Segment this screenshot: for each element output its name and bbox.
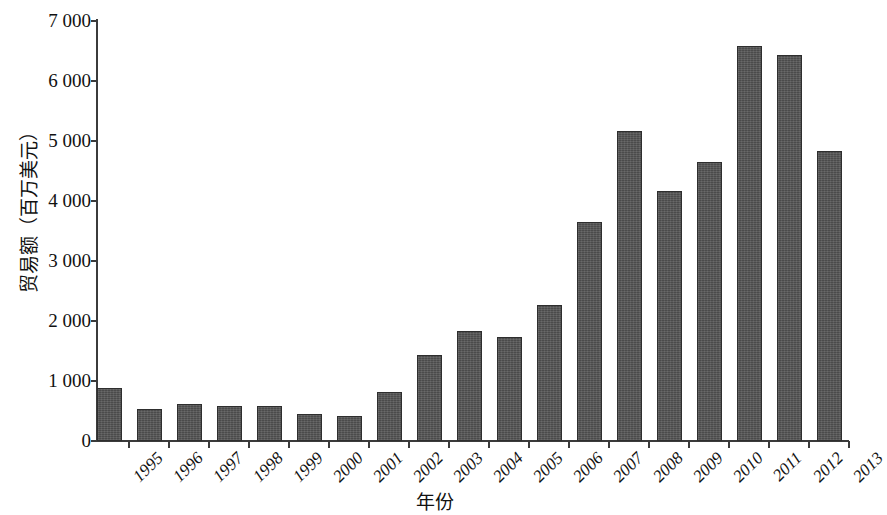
x-tick-label: 2003 bbox=[450, 449, 486, 485]
x-tick-label: 2002 bbox=[410, 449, 446, 485]
bar bbox=[337, 416, 362, 441]
x-tick bbox=[848, 441, 850, 448]
x-tick bbox=[368, 441, 370, 448]
x-tick bbox=[608, 441, 610, 448]
y-tick-label: 0 bbox=[13, 431, 91, 450]
bar bbox=[257, 406, 282, 441]
bar bbox=[617, 131, 642, 441]
x-tick-label: 2000 bbox=[330, 449, 366, 485]
bar bbox=[457, 331, 482, 441]
x-tick bbox=[248, 441, 250, 448]
x-tick-label: 2012 bbox=[810, 449, 846, 485]
x-axis-title: 年份 bbox=[0, 487, 849, 514]
x-tick-label: 1995 bbox=[130, 449, 166, 485]
x-tick bbox=[288, 441, 290, 448]
x-tick-label: 2006 bbox=[570, 449, 606, 485]
x-tick bbox=[768, 441, 770, 448]
bar bbox=[417, 355, 442, 441]
bar bbox=[297, 414, 322, 441]
x-tick bbox=[408, 441, 410, 448]
x-tick bbox=[168, 441, 170, 448]
y-tick-label: 7 000 bbox=[13, 11, 91, 30]
x-tick bbox=[488, 441, 490, 448]
x-tick-label: 2005 bbox=[530, 449, 566, 485]
x-tick-label: 2008 bbox=[650, 449, 686, 485]
x-tick bbox=[808, 441, 810, 448]
bar bbox=[577, 222, 602, 441]
x-tick-label: 2009 bbox=[690, 449, 726, 485]
x-tick-label: 1996 bbox=[170, 449, 206, 485]
y-tick-label: 2 000 bbox=[13, 311, 91, 330]
y-tick-label: 4 000 bbox=[13, 191, 91, 210]
x-tick bbox=[448, 441, 450, 448]
bar bbox=[97, 388, 122, 441]
x-tick-label: 1998 bbox=[250, 449, 286, 485]
x-tick-label: 2001 bbox=[370, 449, 406, 485]
y-tick-label: 1 000 bbox=[13, 371, 91, 390]
y-tick-label: 3 000 bbox=[13, 251, 91, 270]
x-tick bbox=[528, 441, 530, 448]
bar bbox=[537, 305, 562, 441]
x-tick-label: 2010 bbox=[730, 449, 766, 485]
y-tick-label: 6 000 bbox=[13, 71, 91, 90]
x-tick-label: 2013 bbox=[850, 449, 886, 485]
bar bbox=[697, 162, 722, 441]
x-tick-label: 2011 bbox=[770, 449, 805, 484]
bar bbox=[377, 392, 402, 441]
x-tick bbox=[128, 441, 130, 448]
x-tick-label: 1997 bbox=[210, 449, 246, 485]
x-tick-label: 2004 bbox=[490, 449, 526, 485]
y-tick-label: 5 000 bbox=[13, 131, 91, 150]
x-tick-label: 2007 bbox=[610, 449, 646, 485]
x-tick bbox=[648, 441, 650, 448]
bar-series bbox=[97, 20, 849, 441]
bar bbox=[817, 151, 842, 441]
bar bbox=[777, 55, 802, 441]
x-tick-label: 1999 bbox=[290, 449, 326, 485]
bar bbox=[137, 409, 162, 441]
bar bbox=[177, 404, 202, 441]
x-tick bbox=[728, 441, 730, 448]
bar bbox=[657, 191, 682, 441]
x-tick bbox=[568, 441, 570, 448]
x-tick bbox=[328, 441, 330, 448]
x-tick bbox=[688, 441, 690, 448]
x-tick bbox=[208, 441, 210, 448]
bar bbox=[217, 406, 242, 441]
bar bbox=[497, 337, 522, 441]
bar bbox=[737, 46, 762, 441]
